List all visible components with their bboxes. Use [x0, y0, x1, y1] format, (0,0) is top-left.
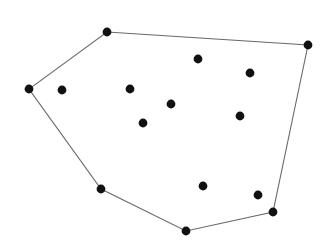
interior-point	[246, 69, 255, 78]
hull-diagram-canvas	[0, 0, 333, 248]
points-group	[25, 28, 313, 236]
hull-vertex-point	[269, 208, 278, 217]
hull-vertex-point	[25, 85, 34, 94]
interior-point	[58, 86, 67, 95]
interior-point	[236, 112, 245, 121]
hull-vertex-point	[103, 28, 112, 37]
hull-vertex-point	[304, 41, 313, 50]
interior-point	[254, 191, 263, 200]
hull-vertex-point	[97, 185, 106, 194]
interior-point	[199, 182, 208, 191]
hull-boundary-path	[29, 32, 308, 231]
hull-vertex-point	[182, 227, 191, 236]
interior-point	[194, 55, 203, 64]
convex-hull-figure	[0, 0, 333, 248]
interior-point	[126, 85, 135, 94]
interior-point	[167, 100, 176, 109]
interior-point	[139, 119, 148, 128]
hull-edges-group	[29, 32, 308, 231]
